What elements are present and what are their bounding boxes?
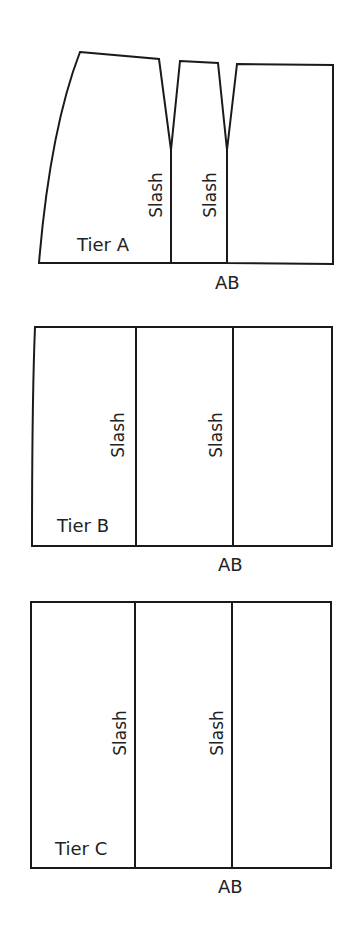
tier-c-label: Tier C bbox=[54, 838, 107, 859]
tier-a-right-piece bbox=[227, 64, 333, 264]
tier-c-ab-label: AB bbox=[218, 876, 243, 897]
tier-a: Slash Slash Tier A AB bbox=[39, 52, 333, 293]
tier-c-slash-label-2: Slash bbox=[207, 710, 227, 756]
tier-c-outline bbox=[31, 602, 331, 868]
tier-b-ab-label: AB bbox=[218, 554, 243, 575]
tier-a-ab-label: AB bbox=[215, 272, 240, 293]
tier-b: Slash Slash Tier B AB bbox=[32, 327, 332, 575]
tier-a-slash-label-2: Slash bbox=[200, 172, 220, 218]
tier-c-slash-label-1: Slash bbox=[110, 710, 130, 756]
tier-b-slash-label-1: Slash bbox=[108, 412, 128, 458]
pattern-diagram: Slash Slash Tier A AB Slash Slash Tier B… bbox=[0, 0, 358, 940]
tier-a-slash-label-1: Slash bbox=[146, 172, 166, 218]
tier-a-middle-piece bbox=[171, 61, 227, 263]
tier-c: Slash Slash Tier C AB bbox=[31, 602, 331, 897]
tier-a-label: Tier A bbox=[76, 234, 130, 255]
tier-a-left-piece bbox=[39, 52, 171, 263]
tier-b-outline bbox=[32, 327, 332, 546]
tier-b-slash-label-2: Slash bbox=[206, 412, 226, 458]
tier-b-label: Tier B bbox=[56, 515, 109, 536]
